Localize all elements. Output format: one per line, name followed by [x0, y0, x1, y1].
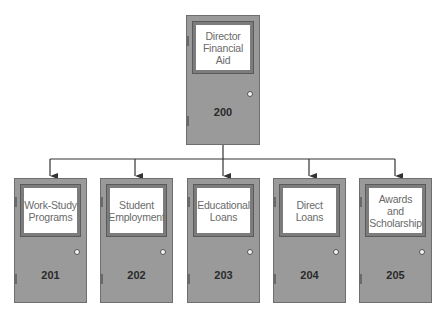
- door-number: 200: [187, 106, 259, 118]
- door-number: 204: [274, 269, 345, 281]
- door-awards-and-scholarship: Awards and Scholarship 205: [359, 178, 432, 303]
- door-sign: Student Employment: [110, 188, 163, 233]
- hinge-icon: [100, 197, 103, 207]
- hinge-icon: [359, 197, 362, 207]
- door-student-employment: Student Employment 202: [100, 178, 173, 303]
- hinge-icon: [187, 197, 190, 207]
- hinge-icon: [186, 36, 189, 46]
- door-sign: Awards and Scholarship: [369, 188, 422, 233]
- door-number: 202: [101, 269, 172, 281]
- doorknob-icon: [247, 91, 253, 97]
- hinge-icon: [273, 197, 276, 207]
- hinge-icon: [14, 197, 17, 207]
- door-educational-loans: Educational Loans 203: [187, 178, 260, 303]
- door-number: 201: [15, 269, 86, 281]
- doorknob-icon: [247, 249, 253, 255]
- doorknob-icon: [419, 249, 425, 255]
- door-number: 203: [188, 269, 259, 281]
- door-sign: Work-Study Programs: [24, 188, 77, 233]
- door-window: Director Financial Aid: [192, 21, 254, 74]
- door-sign: Director Financial Aid: [196, 25, 250, 70]
- doorknob-icon: [74, 249, 80, 255]
- door-window: Educational Loans: [193, 184, 254, 237]
- door-number: 205: [360, 269, 431, 281]
- doorknob-icon: [333, 249, 339, 255]
- door-window: Work-Study Programs: [20, 184, 81, 237]
- door-sign: Direct Loans: [283, 188, 336, 233]
- door-window: Direct Loans: [279, 184, 340, 237]
- door-sign: Educational Loans: [197, 188, 250, 233]
- door-window: Awards and Scholarship: [365, 184, 426, 237]
- door-work-study-programs: Work-Study Programs 201: [14, 178, 87, 303]
- door-window: Student Employment: [106, 184, 167, 237]
- door-director-financial-aid: Director Financial Aid 200: [186, 15, 260, 145]
- door-direct-loans: Direct Loans 204: [273, 178, 346, 303]
- doorknob-icon: [160, 249, 166, 255]
